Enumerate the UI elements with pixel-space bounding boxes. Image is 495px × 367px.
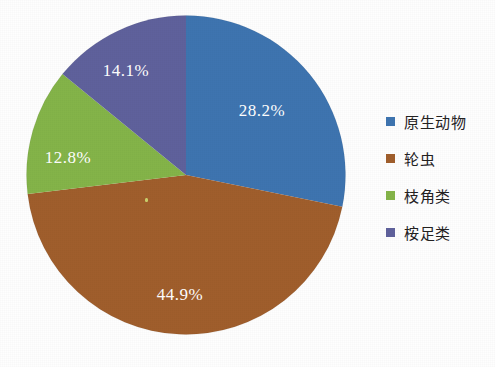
pie-label-cladocera: 12.8%: [45, 148, 91, 167]
legend-swatch-copepoda: [386, 228, 395, 237]
legend-swatch-cladocera: [386, 191, 395, 200]
legend-label-rotifer: 轮虫: [404, 148, 435, 169]
legend-item-protozoa[interactable]: 原生动物: [386, 103, 491, 140]
legend-label-cladocera: 枝角类: [404, 185, 451, 206]
pie-label-rotifer: 44.9%: [157, 285, 203, 304]
legend-label-copepoda: 桉足类: [404, 222, 451, 243]
pie-chart-figure: 28.2% 44.9% 12.8% 14.1% 原生动物 轮虫 枝角类 桉足类: [0, 0, 495, 367]
legend-item-copepoda[interactable]: 桉足类: [386, 214, 491, 251]
legend-swatch-protozoa: [386, 117, 395, 126]
legend-swatch-rotifer: [386, 154, 395, 163]
pie-slice-rotifer[interactable]: [28, 175, 343, 334]
pie-plot-area: 28.2% 44.9% 12.8% 14.1%: [20, 8, 352, 342]
scan-speck: [145, 198, 148, 202]
pie-svg: 28.2% 44.9% 12.8% 14.1%: [20, 8, 352, 342]
pie-label-copepoda: 14.1%: [103, 61, 149, 80]
legend-label-protozoa: 原生动物: [404, 111, 466, 132]
legend-item-cladocera[interactable]: 枝角类: [386, 177, 491, 214]
legend-item-rotifer[interactable]: 轮虫: [386, 140, 491, 177]
chart-legend: 原生动物 轮虫 枝角类 桉足类: [386, 103, 491, 251]
pie-label-protozoa: 28.2%: [239, 101, 285, 120]
